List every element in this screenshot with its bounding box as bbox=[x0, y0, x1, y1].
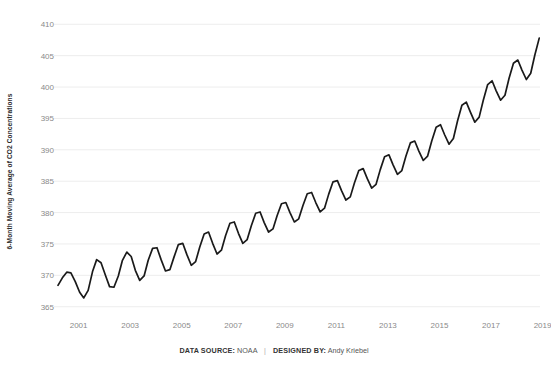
footer-separator: | bbox=[259, 346, 271, 355]
x-tick-2019: 2019 bbox=[534, 321, 551, 330]
x-tick-2013: 2013 bbox=[379, 321, 397, 330]
x-tick-2017: 2017 bbox=[482, 321, 500, 330]
co2-series-line bbox=[58, 38, 539, 298]
x-tick-2003: 2003 bbox=[121, 321, 139, 330]
designer-value: Andy Kriebel bbox=[328, 346, 369, 355]
x-tick-2001: 2001 bbox=[70, 321, 88, 330]
designer-label: DESIGNED BY: bbox=[273, 346, 326, 355]
x-tick-2007: 2007 bbox=[224, 321, 242, 330]
data-source-label: DATA SOURCE: bbox=[180, 346, 236, 355]
x-tick-2009: 2009 bbox=[276, 321, 294, 330]
chart-footer: DATA SOURCE: NOAA | DESIGNED BY: Andy Kr… bbox=[0, 346, 548, 355]
x-tick-2015: 2015 bbox=[431, 321, 449, 330]
data-source-value: NOAA bbox=[237, 346, 257, 355]
x-tick-2011: 2011 bbox=[328, 321, 345, 330]
x-tick-2005: 2005 bbox=[173, 321, 191, 330]
gridlines bbox=[54, 24, 540, 306]
